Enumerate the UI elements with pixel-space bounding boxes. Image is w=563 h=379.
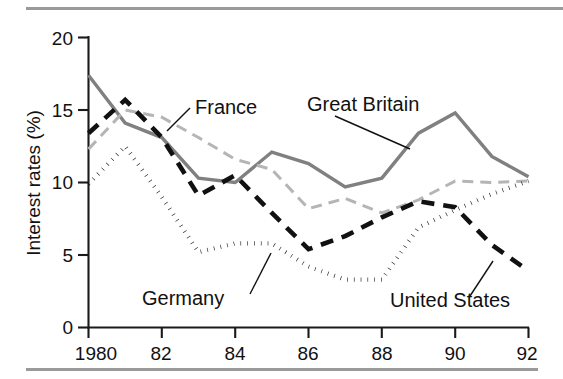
x-tick-label-84: 84 xyxy=(224,343,246,364)
y-tick-label-10: 10 xyxy=(52,172,73,193)
x-tick-label-82: 82 xyxy=(150,343,171,364)
annotation-france: France xyxy=(195,96,257,118)
x-axis-tick-labels: 1980 82 84 86 88 90 92 xyxy=(75,343,538,364)
annotation-germany: Germany xyxy=(142,287,224,309)
figure-container: Interest rates (%) 0 5 10 15 20 xyxy=(0,0,563,379)
x-axis-ticks xyxy=(89,328,529,339)
x-tick-label-90: 90 xyxy=(444,343,465,364)
x-tick-label-1980: 1980 xyxy=(75,343,117,364)
series-line-germany xyxy=(89,146,529,279)
leader-line-great-britain xyxy=(335,116,410,149)
annotation-united-states: United States xyxy=(390,289,510,311)
y-axis-title: Interest rates (%) xyxy=(23,110,44,256)
y-tick-label-15: 15 xyxy=(52,100,73,121)
x-tick-label-86: 86 xyxy=(297,343,318,364)
x-tick-label-88: 88 xyxy=(371,343,392,364)
line-chart: Interest rates (%) 0 5 10 15 20 xyxy=(0,0,563,379)
axis-lines xyxy=(89,37,529,328)
y-tick-label-20: 20 xyxy=(52,28,73,49)
y-axis-tick-labels: 0 5 10 15 20 xyxy=(52,28,73,338)
x-tick-label-92: 92 xyxy=(516,343,537,364)
series-line-france xyxy=(89,110,529,213)
y-axis-ticks xyxy=(78,38,89,328)
leader-line-germany xyxy=(250,253,271,294)
y-tick-label-0: 0 xyxy=(62,317,73,338)
y-tick-label-5: 5 xyxy=(62,245,73,266)
annotation-great-britain: Great Britain xyxy=(307,93,419,115)
series-line-united-states xyxy=(89,100,529,271)
